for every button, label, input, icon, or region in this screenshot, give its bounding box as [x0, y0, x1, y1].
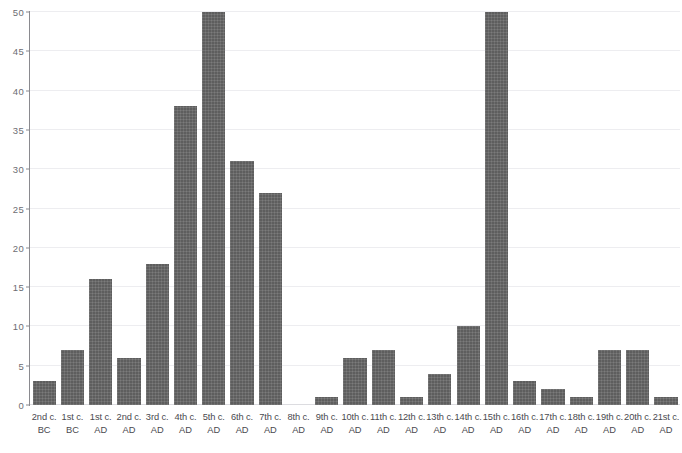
- bar-slot: [567, 12, 595, 405]
- bar-slot: [171, 12, 199, 405]
- bar-18th-c-ad[interactable]: [570, 397, 593, 405]
- x-tick-label: 9th c.AD: [313, 411, 341, 437]
- x-tick-label-line2: AD: [228, 424, 256, 437]
- bar-slot: [539, 12, 567, 405]
- y-tick-label: 15: [13, 282, 24, 293]
- bar-2nd-c-bc[interactable]: [33, 381, 56, 405]
- x-tick-label-line1: 4th c.: [171, 411, 199, 424]
- y-axis: 05101520253035404550: [0, 12, 30, 405]
- bar-13th-c-ad[interactable]: [428, 374, 451, 405]
- x-tick-label: 2nd c.AD: [115, 411, 143, 437]
- x-tick-label: 11th c.AD: [369, 411, 397, 437]
- x-tick-label-line2: AD: [115, 424, 143, 437]
- x-tick-label: 13th c.AD: [426, 411, 454, 437]
- bar-12th-c-ad[interactable]: [400, 397, 423, 405]
- bar-slot: [200, 12, 228, 405]
- bar-slot: [624, 12, 652, 405]
- x-tick-label: 1st c.AD: [87, 411, 115, 437]
- x-tick-label: 2nd c.BC: [30, 411, 58, 437]
- bar-4th-c-ad[interactable]: [174, 106, 197, 405]
- x-tick-label-line1: 3rd c.: [143, 411, 171, 424]
- bar-slot: [30, 12, 58, 405]
- bar-11th-c-ad[interactable]: [372, 350, 395, 405]
- y-tick-label: 0: [18, 400, 24, 411]
- x-tick-label-line1: 15th c.: [482, 411, 510, 424]
- bar-slot: [595, 12, 623, 405]
- x-tick-label: 20th c.AD: [624, 411, 652, 437]
- bar-slot: [313, 12, 341, 405]
- y-tick-label: 35: [13, 124, 24, 135]
- x-tick-label-line1: 11th c.: [369, 411, 397, 424]
- x-tick-label-line2: AD: [256, 424, 284, 437]
- x-tick-label: 18th c.AD: [567, 411, 595, 437]
- x-tick-label-line1: 1st c.: [58, 411, 86, 424]
- x-tick-label: 6th c.AD: [228, 411, 256, 437]
- x-tick-label: 16th c.AD: [511, 411, 539, 437]
- x-tick-label-line2: AD: [200, 424, 228, 437]
- bar-19th-c-ad[interactable]: [598, 350, 621, 405]
- y-tick-label: 45: [13, 46, 24, 57]
- bar-21st-c-ad[interactable]: [654, 397, 677, 405]
- bar-7th-c-ad[interactable]: [259, 193, 282, 405]
- x-tick-label-line2: AD: [595, 424, 623, 437]
- bar-slot: [87, 12, 115, 405]
- x-tick-label: 3rd c.AD: [143, 411, 171, 437]
- x-tick-label-line1: 17th c.: [539, 411, 567, 424]
- y-tick-label: 50: [13, 7, 24, 18]
- x-tick-label: 1st c.BC: [58, 411, 86, 437]
- bar-slot: [426, 12, 454, 405]
- x-tick-label-line1: 8th c.: [284, 411, 312, 424]
- x-tick-label-line2: AD: [313, 424, 341, 437]
- x-axis: 2nd c.BC1st c.BC1st c.AD2nd c.AD3rd c.AD…: [30, 405, 680, 453]
- x-tick-label-line2: AD: [652, 424, 680, 437]
- x-tick-label-line2: AD: [426, 424, 454, 437]
- bar-16th-c-ad[interactable]: [513, 381, 536, 405]
- bar-17th-c-ad[interactable]: [541, 389, 564, 405]
- x-tick-label-line2: AD: [143, 424, 171, 437]
- bar-slot: [58, 12, 86, 405]
- x-tick-label-line1: 5th c.: [200, 411, 228, 424]
- x-tick-label: 4th c.AD: [171, 411, 199, 437]
- bar-5th-c-ad[interactable]: [202, 12, 225, 405]
- bar-slot: [397, 12, 425, 405]
- bar-slot: [256, 12, 284, 405]
- x-tick-label-line1: 6th c.: [228, 411, 256, 424]
- y-tick-label: 25: [13, 203, 24, 214]
- bar-slot: [652, 12, 680, 405]
- bar-1st-c-ad[interactable]: [89, 279, 112, 405]
- bar-slot: [482, 12, 510, 405]
- y-tick-label: 40: [13, 85, 24, 96]
- x-tick-label-line2: AD: [482, 424, 510, 437]
- x-tick-label-line1: 14th c.: [454, 411, 482, 424]
- bar-chart: 05101520253035404550 2nd c.BC1st c.BC1st…: [0, 0, 682, 453]
- x-tick-label-line2: AD: [539, 424, 567, 437]
- bar-1st-c-bc[interactable]: [61, 350, 84, 405]
- bar-14th-c-ad[interactable]: [457, 326, 480, 405]
- bar-6th-c-ad[interactable]: [230, 161, 253, 405]
- bar-2nd-c-ad[interactable]: [117, 358, 140, 405]
- bar-9th-c-ad[interactable]: [315, 397, 338, 405]
- x-tick-label-line1: 19th c.: [595, 411, 623, 424]
- bar-series: [30, 12, 680, 405]
- bar-slot: [115, 12, 143, 405]
- bar-slot: [341, 12, 369, 405]
- x-tick-label-line1: 18th c.: [567, 411, 595, 424]
- x-tick-label: 8th c.AD: [284, 411, 312, 437]
- bar-slot: [228, 12, 256, 405]
- y-tick-label: 10: [13, 321, 24, 332]
- x-tick-label-line2: AD: [397, 424, 425, 437]
- bar-15th-c-ad[interactable]: [485, 12, 508, 405]
- x-tick-label: 10th c.AD: [341, 411, 369, 437]
- bar-slot: [369, 12, 397, 405]
- x-tick-label-line1: 9th c.: [313, 411, 341, 424]
- x-tick-label-line2: AD: [454, 424, 482, 437]
- bar-3rd-c-ad[interactable]: [146, 264, 169, 405]
- x-tick-label-line2: BC: [30, 424, 58, 437]
- x-tick-label: 15th c.AD: [482, 411, 510, 437]
- x-tick-label: 17th c.AD: [539, 411, 567, 437]
- x-tick-label-line2: AD: [284, 424, 312, 437]
- x-tick-label-line1: 12th c.: [397, 411, 425, 424]
- bar-20th-c-ad[interactable]: [626, 350, 649, 405]
- bar-10th-c-ad[interactable]: [343, 358, 366, 405]
- x-tick-label-line1: 1st c.: [87, 411, 115, 424]
